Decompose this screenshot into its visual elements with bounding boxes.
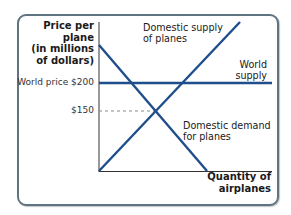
x-axis-label-line: airplanes [207,183,271,195]
y-axis-label-line: plane [31,32,94,44]
domestic-supply-label: Domestic supply of planes [143,22,223,44]
domestic-supply-curve [99,22,240,171]
y-axis-label-line: Price per [31,20,94,32]
domestic-demand-label-line: for planes [183,131,271,142]
x-axis-label: Quantity of airplanes [207,171,271,194]
domestic-demand-label-line: Domestic demand [183,120,271,131]
domestic-supply-label-line: Domestic supply [143,22,223,33]
domestic-supply-label-line: of planes [143,33,223,44]
y-axis-label-line: (in millions [31,43,94,55]
domestic-demand-curve [99,45,207,171]
domestic-price-tick-label: $150 [71,105,94,116]
world-supply-label-line: supply [235,70,267,81]
world-supply-label: World supply [235,59,267,81]
domestic-demand-label: Domestic demand for planes [183,120,271,142]
y-axis-label-line: of dollars) [31,55,94,67]
y-axis-label: Price per plane (in millions of dollars) [31,20,94,66]
x-axis-label-line: Quantity of [207,171,271,183]
world-supply-label-line: World [235,59,267,70]
world-price-tick-label: World price $200 [17,77,94,88]
